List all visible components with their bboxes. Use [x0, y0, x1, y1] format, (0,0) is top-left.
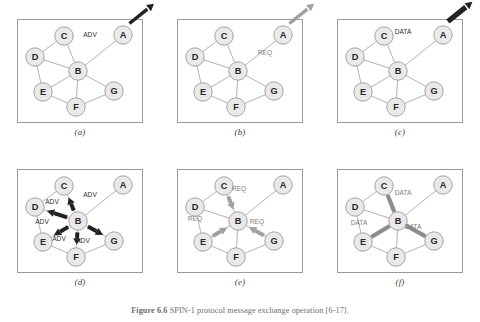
panel-label-f: (f) [320, 277, 480, 287]
node-d: D [26, 198, 44, 216]
node-label: G [110, 86, 117, 96]
node-label: F [393, 252, 399, 262]
node-label: A [440, 30, 447, 40]
node-d: D [26, 48, 44, 66]
message-label-adv: ADV [52, 235, 66, 242]
node-a: A [274, 26, 292, 44]
panel-graph-f: ABCDEFGDATADATADATA [337, 169, 463, 273]
node-label: F [73, 252, 79, 262]
node-c: C [375, 177, 393, 195]
graph-nodes: ABCDEFG [346, 26, 452, 116]
panel-c: ABCDEFGDATA(c) [320, 0, 480, 150]
node-b: B [229, 212, 247, 230]
node-b: B [389, 62, 407, 80]
node-c: C [55, 27, 73, 45]
message-arrow-adv-B-C [68, 198, 75, 211]
node-e: E [354, 83, 372, 101]
message-arrow-adv-B-D [47, 209, 67, 217]
message-arrow-data-A-B [448, 2, 473, 22]
node-label: E [40, 87, 46, 97]
message-label-data: DATA [395, 28, 412, 35]
node-label: A [440, 180, 447, 190]
node-e: E [354, 233, 372, 251]
message-label-req: REQ [258, 49, 272, 57]
node-label: C [221, 31, 228, 41]
message-label-req: REQ [232, 185, 246, 193]
panel-a: ABCDEFGADV(a) [0, 0, 160, 150]
message-arrow-adv-B-G [88, 227, 103, 235]
node-label: E [360, 237, 366, 247]
panel-e: ABCDEFGREQREQREQ(e) [160, 150, 320, 300]
node-label: G [430, 236, 437, 246]
message-label-req: REQ [188, 215, 202, 223]
node-d: D [346, 198, 364, 216]
message-label-req: REQ [250, 218, 264, 226]
node-label: A [120, 180, 127, 190]
panel-label-d: (d) [0, 277, 160, 287]
message-label-data: DATA [351, 219, 368, 226]
message-label-adv: ADV [76, 237, 90, 244]
node-f: F [67, 248, 85, 266]
node-label: D [32, 52, 39, 62]
panel-label-b: (b) [160, 127, 320, 137]
message-label-adv: ADV [35, 218, 49, 225]
node-a: A [274, 176, 292, 194]
node-label: F [233, 252, 239, 262]
message-arrow-req-G-B [249, 227, 264, 235]
node-c: C [55, 177, 73, 195]
node-label: C [381, 31, 388, 41]
node-label: B [235, 216, 242, 226]
message-arrow-req-E-B [213, 227, 228, 236]
node-g: G [265, 232, 283, 250]
panel-label-a: (a) [0, 127, 160, 137]
node-label: G [270, 86, 277, 96]
message-arrow-data-B-C [388, 195, 395, 212]
node-g: G [105, 82, 123, 100]
panel-f: ABCDEFGDATADATADATA(f) [320, 150, 480, 300]
panel-label-c: (c) [320, 127, 480, 137]
panel-b: ABCDEFGREQ(b) [160, 0, 320, 150]
node-f: F [227, 98, 245, 116]
node-label: B [75, 216, 82, 226]
node-label: C [221, 181, 228, 191]
node-label: B [395, 66, 402, 76]
message-arrow-req-B-A [289, 4, 314, 24]
node-label: E [200, 87, 206, 97]
message-label-adv: ADV [45, 198, 59, 205]
node-label: D [192, 202, 199, 212]
message-label-adv: ADV [83, 191, 97, 198]
node-label: D [192, 52, 199, 62]
node-e: E [34, 83, 52, 101]
node-label: C [381, 181, 388, 191]
message-label-data: DATA [395, 189, 412, 196]
node-a: A [434, 26, 452, 44]
node-f: F [387, 98, 405, 116]
node-e: E [194, 233, 212, 251]
node-a: A [114, 176, 132, 194]
node-d: D [346, 48, 364, 66]
node-g: G [265, 82, 283, 100]
message-arrow-data-B-E [371, 226, 389, 237]
node-f: F [227, 248, 245, 266]
node-label: E [40, 237, 46, 247]
panel-graph-e: ABCDEFGREQREQREQ [177, 169, 303, 273]
panel-label-e: (e) [160, 277, 320, 287]
node-label: D [352, 202, 359, 212]
node-label: G [270, 236, 277, 246]
node-b: B [229, 62, 247, 80]
message-arrow-adv-A-B [129, 4, 154, 24]
figure-caption-text: SPIN-1 protocol message exchange operati… [170, 306, 349, 315]
node-label: E [360, 87, 366, 97]
node-label: A [280, 30, 287, 40]
node-d: D [186, 198, 204, 216]
node-f: F [67, 98, 85, 116]
message-arrow-req-C-B [227, 197, 234, 210]
node-g: G [105, 232, 123, 250]
node-label: C [61, 181, 68, 191]
message-label-adv: ADV [83, 31, 97, 38]
node-f: F [387, 248, 405, 266]
node-e: E [194, 83, 212, 101]
node-label: B [75, 66, 82, 76]
node-c: C [215, 177, 233, 195]
node-label: A [280, 180, 287, 190]
